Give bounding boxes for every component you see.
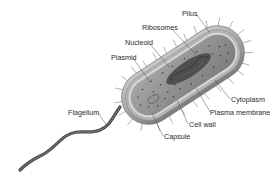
cell-body (100, 4, 266, 145)
label-plasma-membrane: Plasma membrane (210, 109, 270, 116)
bacterial-cell-diagram (0, 0, 280, 177)
label-cell-wall: Cell wall (189, 121, 216, 128)
label-nucleoid: Nucleoid (125, 39, 153, 46)
label-cytoplasm: Cytoplasm (231, 96, 265, 103)
label-plasmid: Plasmid (111, 54, 137, 61)
label-ribosomes: Ribosomes (142, 24, 178, 31)
label-flagellum: Flagellum (68, 109, 99, 116)
label-capsule: Capsule (164, 133, 190, 140)
label-pilus: Pilus (182, 10, 198, 17)
